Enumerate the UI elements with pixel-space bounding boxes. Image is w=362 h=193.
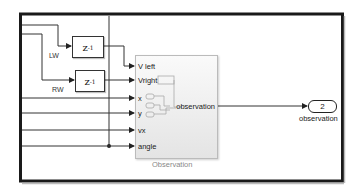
block-name-observation: Observation	[152, 160, 192, 169]
input-port-label-y: y	[138, 110, 142, 118]
input-port-label-vleft: V left	[138, 63, 155, 71]
delay-exponent: -1	[88, 44, 94, 51]
input-port-label-vx: vx	[138, 127, 146, 135]
signal-line-rw[interactable]	[22, 34, 74, 80]
output-port-label-observation: observation	[176, 103, 215, 111]
unit-delay-lw-block[interactable]: z-1	[72, 36, 104, 58]
observation-subsystem-block[interactable]: V left Vright x y vx angle observation	[135, 55, 218, 159]
delay-exponent: -1	[90, 78, 96, 85]
outport-number: 2	[320, 102, 324, 111]
input-port-label-angle: angle	[138, 143, 156, 151]
outport-observation[interactable]: 2	[308, 100, 337, 113]
outport-label: observation	[299, 115, 338, 123]
signal-line-vleft[interactable]	[103, 46, 134, 66]
signal-label-rw: RW	[52, 86, 64, 93]
input-port-label-x: x	[138, 95, 142, 103]
signal-label-lw: LW	[49, 52, 59, 59]
input-port-label-vright: Vright	[138, 77, 157, 85]
signal-line-lw[interactable]	[22, 25, 71, 46]
unit-delay-rw-block[interactable]: z-1	[75, 70, 105, 92]
